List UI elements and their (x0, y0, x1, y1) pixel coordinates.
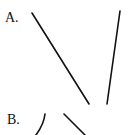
part-a-lines (32, 11, 120, 104)
part-a-right-line (107, 11, 120, 104)
part-a-left-line (32, 13, 89, 104)
line-diagram (0, 0, 131, 135)
part-b-curve (36, 114, 45, 135)
part-b-diagonal-line (64, 114, 85, 135)
part-b-lines (36, 114, 85, 135)
